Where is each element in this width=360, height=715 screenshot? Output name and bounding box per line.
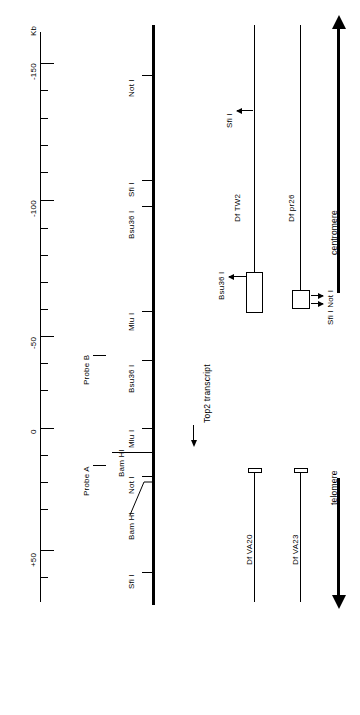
df-va20-label: Df VA20 [246, 534, 254, 565]
restriction-site-tick [142, 206, 153, 207]
restriction-site-label: Bsu36 I [128, 364, 136, 393]
axis-tick-minor [40, 228, 48, 229]
axis-tick-minor [40, 390, 48, 391]
restriction-site-label: Mlu I [128, 430, 136, 448]
axis-tick-minor [40, 455, 48, 456]
axis-tick-label: -100 [30, 200, 38, 217]
restriction-site-tick [142, 75, 153, 76]
df-tw2-breakpoint-box [246, 272, 263, 313]
df-va23-endpoint-cap [294, 468, 308, 473]
top2-transcript-arrow [193, 425, 194, 441]
restriction-site-label: Sfi I [128, 182, 136, 197]
df-va23-line [300, 472, 301, 602]
genomic-physical-map-figure: Kb -150 -100 -50 0 +50 Probe B Probe A N… [0, 0, 360, 715]
restriction-site-label: Bsu36 I [128, 210, 136, 239]
axis-tick-minor [40, 309, 48, 310]
axis-tick-minor [40, 282, 48, 283]
top2-transcript-label: Top2 transcript [203, 364, 212, 423]
restriction-site-tick [142, 311, 153, 312]
df-va20-line [254, 472, 255, 602]
axis-tick-label: 0 [30, 429, 38, 434]
restriction-site-label: Bam HI [128, 512, 136, 540]
restriction-site-label: Mlu I [128, 313, 136, 331]
axis-tick-major [40, 336, 54, 337]
df-tw2-bsu36-label: Bsu36 I [218, 271, 226, 300]
df-tw2-bsu36-arrow [229, 276, 246, 277]
df-pr26-sites-label: Sfi I Not I [327, 290, 335, 325]
scale-units-label: Kb [30, 26, 38, 36]
probe-b-bar [93, 355, 106, 356]
restriction-site-tick [142, 572, 153, 573]
df-tw2-label: Df TW2 [234, 194, 242, 222]
probe-a-label: Probe A [83, 466, 91, 496]
df-pr26-label: Df pr26 [288, 194, 296, 222]
axis-tick-minor [40, 577, 48, 578]
restriction-site-label: Not I [128, 79, 136, 97]
restriction-site-label: Sfi I [128, 574, 136, 589]
axis-tick-minor [40, 363, 48, 364]
axis-tick-major [40, 200, 54, 201]
probe-b-label: Probe B [83, 355, 91, 385]
df-pr26-sfi-arrow [311, 295, 323, 296]
centromere-label: centromere [330, 210, 339, 255]
df-pr26-line [300, 25, 301, 291]
axis-tick-minor [40, 145, 48, 146]
axis-tick-major [40, 63, 54, 64]
axis-tick-minor [40, 90, 48, 91]
restriction-site-tick [142, 360, 153, 361]
axis-tick-label: -50 [30, 337, 38, 349]
df-tw2-sfi-label: Sfi I [226, 113, 234, 128]
axis-tick-minor [40, 482, 48, 483]
df-tw2-sfi-arrow [237, 110, 253, 111]
axis-tick-minor [40, 118, 48, 119]
axis-tick-label: -150 [30, 63, 38, 80]
df-tw2-line [254, 25, 255, 273]
telomere-label: telomere [330, 470, 339, 505]
axis-tick-label: +50 [30, 553, 38, 567]
axis-tick-major [40, 550, 54, 551]
axis-tick-minor [40, 255, 48, 256]
probe-a-bar [93, 465, 106, 466]
df-va23-label: Df VA23 [292, 534, 300, 565]
df-pr26-not-arrow [311, 303, 323, 304]
restriction-site-tick [142, 428, 153, 429]
restriction-site-tick [142, 180, 153, 181]
df-va20-endpoint-cap [248, 468, 262, 473]
axis-tick-major [40, 428, 54, 429]
axis-tick-minor [40, 509, 48, 510]
df-pr26-breakpoint-box [292, 290, 310, 309]
axis-tick-minor [40, 172, 48, 173]
